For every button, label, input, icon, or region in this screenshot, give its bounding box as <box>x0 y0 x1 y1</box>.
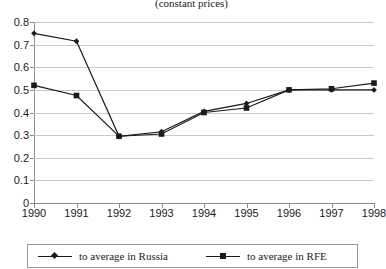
x-axis-label: 1997 <box>319 208 343 219</box>
data-point-square <box>159 131 165 137</box>
y-axis-label: 0.3 <box>14 130 29 141</box>
chart-legend: to average in Russia to average in RFE <box>27 244 358 268</box>
data-point-square <box>74 93 80 99</box>
data-point-diamond <box>371 87 377 93</box>
y-axis-label: 0.1 <box>14 175 29 186</box>
x-axis-label: 1992 <box>107 208 131 219</box>
y-axis-label: 0.7 <box>14 39 29 50</box>
data-point-diamond <box>31 30 37 36</box>
square-marker-icon <box>206 251 240 261</box>
x-axis-label: 1990 <box>22 208 46 219</box>
data-point-square <box>201 110 207 116</box>
data-point-square <box>244 105 250 111</box>
data-point-square <box>286 87 292 93</box>
diamond-marker-icon <box>38 251 72 261</box>
legend-label-rfe: to average in RFE <box>247 250 327 262</box>
series-group <box>34 22 374 203</box>
x-axis-label: 1995 <box>234 208 258 219</box>
legend-item-russia[interactable]: to average in Russia <box>38 245 168 267</box>
series-line <box>34 33 374 136</box>
y-axis-label: 0.6 <box>14 62 29 73</box>
plot-area: 00.10.20.30.40.50.60.70.8 19901991199219… <box>34 22 374 203</box>
x-axis-label: 1998 <box>362 208 386 219</box>
legend-item-rfe[interactable]: to average in RFE <box>206 245 327 267</box>
x-axis-label: 1994 <box>192 208 216 219</box>
data-point-square <box>31 83 37 89</box>
data-point-diamond <box>74 38 80 44</box>
chart-title: (constant prices) <box>0 0 383 10</box>
y-axis-label: 0.8 <box>14 17 29 28</box>
data-point-square <box>329 86 335 92</box>
y-axis-label: 0.5 <box>14 84 29 95</box>
x-axis-label: 1991 <box>64 208 88 219</box>
x-axis-label: 1993 <box>149 208 173 219</box>
y-axis-label: 0.4 <box>14 107 29 118</box>
data-point-square <box>371 80 377 86</box>
x-axis-label: 1996 <box>277 208 301 219</box>
legend-label-russia: to average in Russia <box>79 250 168 262</box>
y-axis-label: 0.2 <box>14 152 29 163</box>
data-point-square <box>116 133 122 139</box>
